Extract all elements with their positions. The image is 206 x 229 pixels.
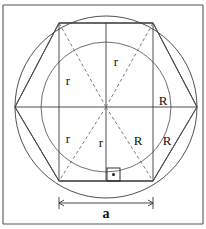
label-r-bottom-center: r	[99, 135, 104, 150]
label-R-lower-inner: R	[134, 133, 143, 148]
diagonal-to-bottom-right	[106, 107, 153, 181]
geometry-figure-container: r r r r R R R a	[0, 0, 206, 229]
diagonal-to-top-left	[59, 23, 106, 107]
label-R-right: R	[159, 93, 168, 108]
geometry-diagram: r r r r R R R a	[0, 0, 206, 229]
label-r-left-lower: r	[66, 131, 71, 146]
octagon-edge-upper-left	[15, 23, 59, 107]
right-angle-marker	[107, 168, 120, 181]
label-r-top: r	[114, 54, 119, 69]
label-a-dimension: a	[103, 206, 110, 221]
figure-frame-lines	[3, 5, 203, 224]
label-r-left-upper: r	[66, 73, 71, 88]
right-angle-dot	[112, 173, 115, 176]
label-R-lower-outer: R	[163, 133, 172, 148]
